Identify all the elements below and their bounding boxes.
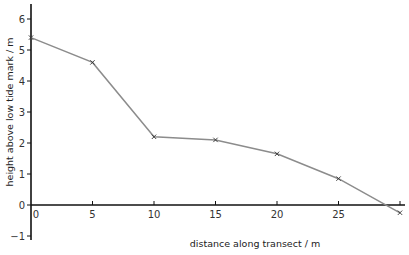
- y-tick-label: 5: [19, 45, 25, 56]
- y-axis-label: height above low tide mark / m: [4, 38, 15, 187]
- series-line: [31, 38, 400, 213]
- y-tick-label: 3: [19, 107, 25, 118]
- x-tick-label: 25: [332, 209, 345, 220]
- y-tick-label: 2: [19, 138, 25, 149]
- x-tick-label: 10: [148, 209, 161, 220]
- tick-marks: −101234560510152025: [10, 14, 400, 242]
- x-axis-label: distance along transect / m: [190, 238, 320, 249]
- axes: [31, 4, 405, 240]
- y-tick-label: 6: [19, 14, 25, 25]
- y-tick-label: 0: [19, 200, 25, 211]
- x-tick-label: 5: [89, 209, 95, 220]
- x-tick-label: 0: [33, 209, 39, 220]
- y-tick-label: 1: [19, 169, 25, 180]
- x-tick-label: 15: [209, 209, 222, 220]
- x-tick-label: 20: [271, 209, 284, 220]
- y-tick-label: −1: [10, 231, 25, 242]
- line-chart: −101234560510152025 distance along trans…: [0, 0, 409, 255]
- data-series: [29, 35, 402, 215]
- y-tick-label: 4: [19, 76, 25, 87]
